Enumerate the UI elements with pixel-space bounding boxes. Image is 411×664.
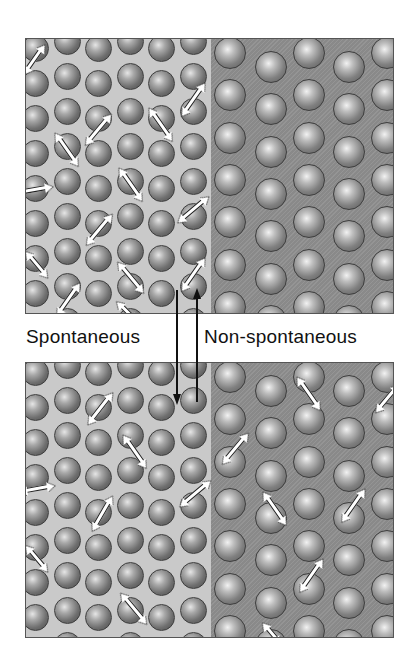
atom [25,210,49,237]
atom [255,460,287,492]
atom [293,206,325,238]
atom [214,164,246,196]
atom [117,203,144,230]
atom [54,422,81,449]
atom [54,527,81,554]
atom [25,604,49,631]
atom [255,136,287,168]
atom [214,488,246,520]
atom [117,387,144,414]
atom [117,133,144,160]
atom [85,245,112,272]
atom [148,394,175,421]
atom [333,375,365,407]
atom [25,105,49,132]
atom [255,93,287,125]
non-spontaneous-label: Non-spontaneous [204,326,357,348]
atom [333,178,365,210]
atom [180,387,207,414]
atom [117,492,144,519]
atom [117,527,144,554]
atom [85,70,112,97]
atom [255,263,287,295]
atom [255,220,287,252]
atom [54,597,81,624]
atom [54,562,81,589]
atom [333,51,365,83]
atom [85,604,112,631]
atom [54,238,81,265]
atom [214,122,246,154]
panel-final-state [25,362,394,638]
atom [148,245,175,272]
atom [293,122,325,154]
atom [117,63,144,90]
atom [25,429,49,456]
atom [148,429,175,456]
atom [85,569,112,596]
atom [117,98,144,125]
atom [148,175,175,202]
atom [85,534,112,561]
atom [293,488,325,520]
atom [85,429,112,456]
atom [25,499,49,526]
atom [85,38,112,62]
atom [25,140,49,167]
atom [333,136,365,168]
atom [148,569,175,596]
atom [180,422,207,449]
atom [333,93,365,125]
atom [148,280,175,307]
atom [180,133,207,160]
atom [214,206,246,238]
atom [333,544,365,576]
spontaneous-label: Spontaneous [26,326,140,348]
atom [293,38,325,69]
atom [148,70,175,97]
atom [214,403,246,435]
atom [148,464,175,491]
atom [255,51,287,83]
atom [148,499,175,526]
atom [148,38,175,62]
atom [148,210,175,237]
atom [54,457,81,484]
atom [85,464,112,491]
atom [25,280,49,307]
atom [214,249,246,281]
atom [293,164,325,196]
atom [54,63,81,90]
atom [293,249,325,281]
atom [148,362,175,386]
atom [25,394,49,421]
atom [255,375,287,407]
atom [255,544,287,576]
atom [333,220,365,252]
atom [293,79,325,111]
atom [148,534,175,561]
atom [25,362,49,386]
atom [54,387,81,414]
atom [333,263,365,295]
atom [148,140,175,167]
atom [293,446,325,478]
atom [333,587,365,619]
atom [85,280,112,307]
atom [54,168,81,195]
atom [180,527,207,554]
atom [180,562,207,589]
atom [214,573,246,605]
atom [54,98,81,125]
atom [54,203,81,230]
atom [214,38,246,69]
atom [85,175,112,202]
atom [333,417,365,449]
atom [255,587,287,619]
atom [180,597,207,624]
atom [148,604,175,631]
atom [214,79,246,111]
atom [85,362,112,386]
atom [255,417,287,449]
atom [180,168,207,195]
